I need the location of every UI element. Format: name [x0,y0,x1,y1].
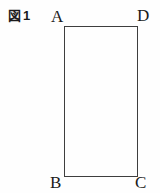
vertex-label-a: A [51,8,63,25]
rectangle-abcd [64,26,138,177]
vertex-label-c: C [135,174,146,191]
figure-caption: 図1 [8,8,32,24]
vertex-label-d: D [137,7,149,24]
figure-diagram: 図1 A D B C [0,0,160,193]
vertex-label-b: B [50,174,61,191]
